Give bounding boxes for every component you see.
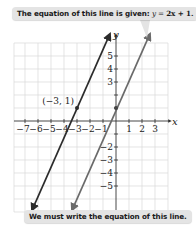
x-tick-label: −7 [16, 124, 30, 134]
callout-text: We must write the equation of this line. [29, 212, 187, 221]
y-tick-label: 4 [107, 64, 113, 74]
y-axis-label: y [112, 29, 119, 40]
point-label: (−3, 1) [42, 96, 74, 106]
callout-text: The equation of this line is given: [17, 9, 152, 18]
top-callout-pointer [140, 20, 150, 38]
x-tick-label: −5 [42, 124, 56, 134]
point-neg3-1 [75, 106, 79, 110]
y-tick-label: −5 [100, 181, 114, 191]
x-tick-label: −2 [81, 124, 94, 134]
x-tick-label: −6 [29, 124, 43, 134]
x-axis-label: x [172, 116, 178, 127]
coordinate-plane: −7 −6 −5 −4 −3 −2 −1 1 2 3 5 4 3 −2 −3 −… [0, 0, 196, 234]
equation-rhs: 2x + 1. [166, 9, 193, 18]
y-tick-label: 5 [107, 51, 113, 61]
x-tick-label: 3 [152, 124, 158, 134]
y-tick-label: −4 [100, 168, 114, 178]
y-tick-label: 3 [107, 77, 113, 87]
task-callout: We must write the equation of this line. [24, 210, 192, 223]
unknown-line [33, 36, 109, 208]
x-tick-label: 1 [126, 124, 132, 134]
point-0-1 [114, 106, 118, 110]
given-equation-callout: The equation of this line is given: y = … [12, 7, 196, 20]
x-tick-label: 2 [139, 124, 145, 134]
y-tick-label: −3 [100, 155, 114, 165]
equation: y = 2x + 1. [152, 9, 193, 18]
equation-equals: = [156, 9, 166, 18]
